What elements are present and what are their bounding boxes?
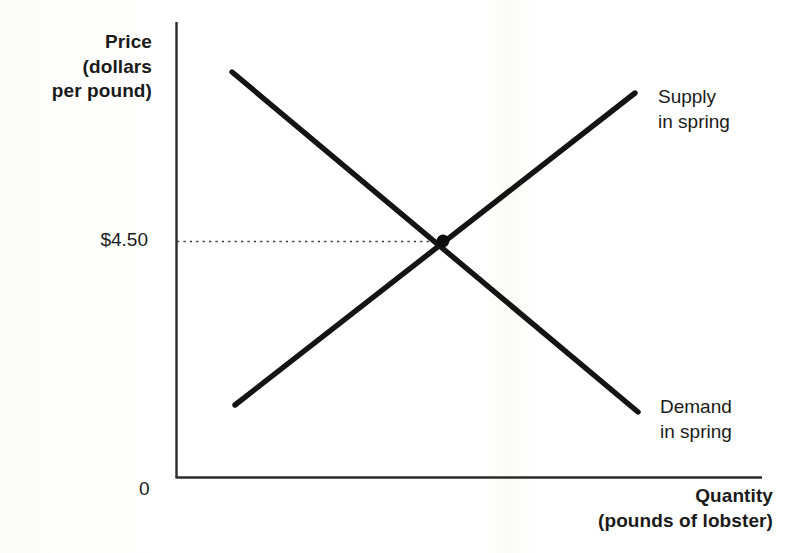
chart-figure: Price (dollars per pound) $4.50 0 Supply… xyxy=(0,0,794,553)
supply-curve-label: Supply in spring xyxy=(658,84,730,135)
y-axis-title: Price (dollars per pound) xyxy=(52,30,152,104)
origin-label: 0 xyxy=(139,477,150,502)
demand-curve-label: Demand in spring xyxy=(660,394,732,445)
equilibrium-point-marker xyxy=(437,235,450,248)
price-tick-label: $4.50 xyxy=(100,228,148,253)
x-axis-title: Quantity (pounds of lobster) xyxy=(598,484,773,533)
